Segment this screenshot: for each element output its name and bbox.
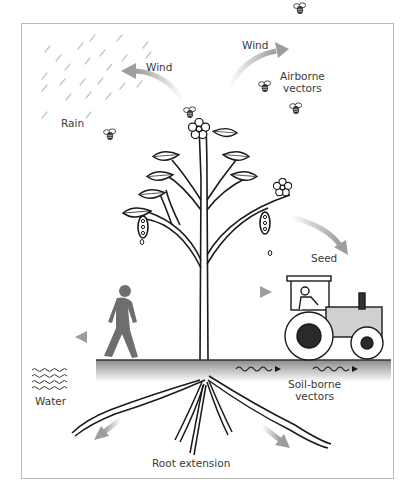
- soilborne-vectors-label: Soil-borne vectors: [288, 378, 341, 402]
- seed-arrow: [290, 217, 340, 245]
- airborne-vectors-label: Airborne vectors: [280, 70, 325, 94]
- water-waves-icon: [32, 369, 67, 390]
- seed-pod-left: [138, 216, 148, 238]
- wind-arrow-left-head: [121, 63, 136, 79]
- insect-icon: [290, 103, 302, 114]
- seed-label: Seed: [311, 252, 337, 264]
- flower-side: [273, 178, 291, 195]
- walking-person-silhouette: [104, 285, 138, 358]
- dispersal-illustration: [0, 0, 418, 499]
- plant: [146, 127, 290, 360]
- wind-arrow-left: [136, 71, 183, 100]
- rain-label: Rain: [61, 117, 84, 129]
- insect-icon: [104, 129, 116, 140]
- tractor: [285, 276, 383, 360]
- wind-arrow-right-head: [275, 42, 289, 58]
- insect-icon: [184, 107, 196, 118]
- root-arrow-left: [104, 419, 121, 432]
- flower-top: [188, 118, 209, 138]
- seed-pod-right: [260, 212, 270, 234]
- root-extension-label: Root extension: [152, 457, 230, 469]
- water-label: Water: [35, 395, 66, 407]
- root-arrow-right: [262, 426, 280, 440]
- wind-label-right: Wind: [242, 39, 268, 51]
- seed-left: [140, 240, 144, 245]
- insect-icon: [294, 3, 306, 14]
- seed-right: [268, 251, 272, 256]
- insect-icon: [259, 81, 271, 92]
- wind-label-left: Wind: [146, 61, 172, 73]
